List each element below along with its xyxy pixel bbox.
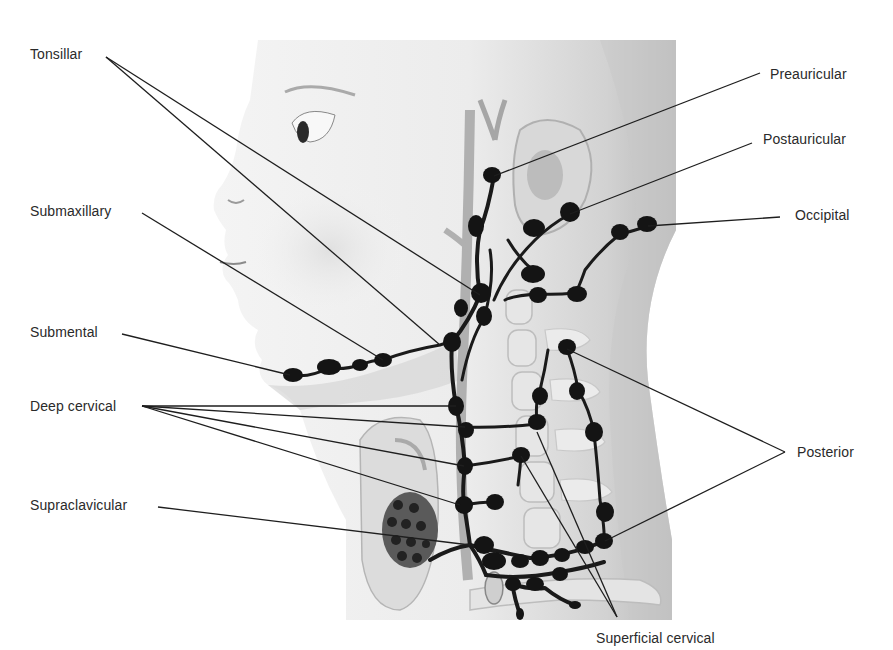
leader-line-deep-cervical [142, 406, 465, 427]
leader-line-occipital [648, 217, 780, 226]
leader-line-posterior [605, 452, 785, 541]
leader-line-superficial-cervical [521, 456, 617, 617]
label-superficial-cervical: Superficial cervical [596, 630, 715, 646]
label-deep-cervical: Deep cervical [30, 398, 116, 414]
label-posterior: Posterior [797, 444, 854, 460]
label-submental: Submental [30, 324, 98, 340]
label-submaxillary: Submaxillary [30, 203, 111, 219]
label-postauricular: Postauricular [763, 131, 846, 147]
label-occipital: Occipital [795, 207, 850, 223]
leader-line-posterior [567, 349, 785, 452]
label-supraclavicular: Supraclavicular [30, 497, 127, 513]
label-preauricular: Preauricular [770, 66, 847, 82]
leader-line-deep-cervical [142, 406, 464, 466]
leader-line-preauricular [494, 73, 760, 176]
leader-line-deep-cervical [142, 406, 460, 505]
leader-line-tonsillar [106, 57, 480, 295]
lymph-node-diagram: Tonsillar Submaxillary Submental Deep ce… [0, 0, 893, 650]
leader-lines [0, 0, 893, 650]
label-tonsillar: Tonsillar [30, 46, 82, 62]
leader-line-supraclavicular [158, 507, 470, 545]
leader-line-submaxillary [142, 213, 383, 360]
leader-line-postauricular [570, 143, 752, 214]
leader-line-superficial-cervical [537, 432, 617, 617]
leader-line-tonsillar [106, 57, 440, 345]
leader-line-submental [122, 334, 290, 375]
